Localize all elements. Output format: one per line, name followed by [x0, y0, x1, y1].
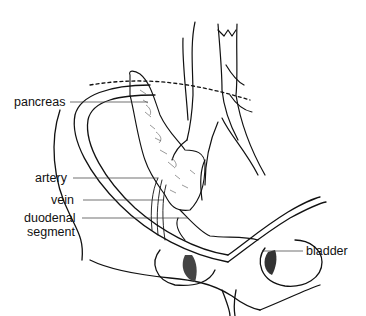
label-artery: artery [35, 172, 67, 185]
bladder-shading [265, 250, 277, 275]
label-bladder: bladder [306, 245, 348, 258]
label-duodenal: duodenal [24, 212, 75, 225]
anatomical-diagram: pancreas artery vein duodenal segment bl… [0, 0, 366, 316]
left-shading [183, 255, 197, 282]
leader-lines [70, 102, 303, 251]
label-vein: vein [51, 194, 74, 207]
pelvis [54, 81, 326, 316]
illustration [0, 0, 366, 316]
label-segment: segment [27, 226, 75, 239]
major-vessels [172, 22, 265, 200]
graft-vessels [151, 178, 166, 240]
label-pancreas: pancreas [14, 96, 65, 109]
pancreas-organ [130, 71, 205, 210]
duodenal-segment-shape [177, 210, 258, 240]
